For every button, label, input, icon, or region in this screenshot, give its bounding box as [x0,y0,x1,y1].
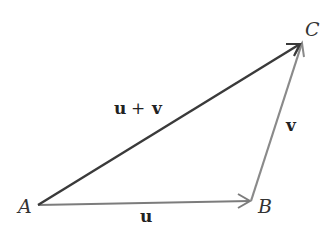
label-sum-u: u [114,98,126,118]
vector-sum [38,44,300,205]
point-label-c: C [305,18,320,40]
label-sum-v: v [151,98,163,118]
label-v: v [285,115,297,135]
point-label-b: B [257,195,272,217]
point-label-a: A [16,195,32,217]
label-u: u [140,206,152,226]
label-sum-plus: + [131,98,145,118]
vector-v [251,43,304,201]
vector-diagram: A B C u + v v u [0,0,333,231]
